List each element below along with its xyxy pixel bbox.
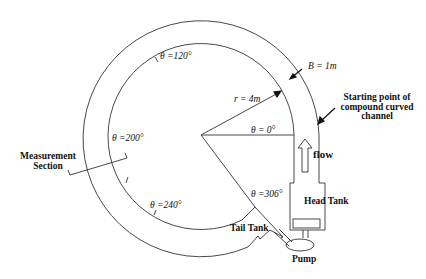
label-flow: flow: [313, 149, 333, 160]
label-measurement-section: Measurement Section: [18, 152, 78, 171]
label-width: B = 1m: [308, 62, 337, 72]
channel-diagram: [0, 0, 426, 279]
pump-shape: [286, 239, 314, 251]
head-tank-inner-box: [293, 219, 320, 228]
label-theta-306: θ =306°: [251, 190, 283, 200]
label-head-tank: Head Tank: [304, 197, 349, 207]
label-theta-0: θ = 0°: [251, 126, 275, 136]
label-pump: Pump: [292, 255, 316, 265]
theta-306-line: [201, 135, 255, 207]
label-theta-240: θ =240°: [150, 201, 182, 211]
label-theta-200: θ =200°: [112, 134, 144, 144]
label-starting-point: Starting point of compound curved channe…: [337, 93, 417, 122]
label-tail-tank: Tail Tank: [230, 224, 268, 234]
label-radius: r = 4m: [234, 95, 260, 105]
label-theta-120: θ =120°: [160, 52, 192, 62]
flow-arrow: [298, 139, 312, 172]
